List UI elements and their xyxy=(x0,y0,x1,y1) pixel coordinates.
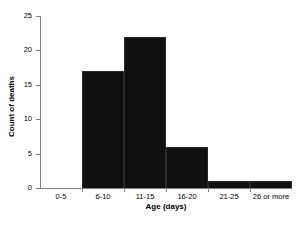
x-tick-mark-3 xyxy=(166,188,167,192)
x-axis-title: Age (days) xyxy=(40,202,292,211)
y-tick-label-5: 5 xyxy=(0,150,32,158)
y-tick-mark-15 xyxy=(36,85,40,86)
y-tick-label-0: 0 xyxy=(0,184,32,192)
y-tick-label-15: 15 xyxy=(0,81,32,89)
y-tick-label-20: 20 xyxy=(0,46,32,54)
y-tick-label-10: 10 xyxy=(0,115,32,123)
x-tick-mark-5 xyxy=(250,188,251,192)
x-tick-label-26-or-more: 26 or more xyxy=(241,192,300,201)
page-text-artifact xyxy=(22,219,292,226)
y-tick-mark-0 xyxy=(36,188,40,189)
x-tick-mark-4 xyxy=(208,188,209,192)
y-axis-title: Count of deaths xyxy=(7,47,16,167)
y-tick-mark-10 xyxy=(36,119,40,120)
y-tick-mark-5 xyxy=(36,154,40,155)
y-tick-mark-20 xyxy=(36,50,40,51)
y-tick-label-25: 25 xyxy=(0,12,32,20)
x-tick-mark-2 xyxy=(124,188,125,192)
y-tick-mark-25 xyxy=(36,16,40,17)
histogram-figure: 0510152025 0-56-1011-1516-2021-2526 or m… xyxy=(0,0,300,228)
x-tick-mark-1 xyxy=(82,188,83,192)
